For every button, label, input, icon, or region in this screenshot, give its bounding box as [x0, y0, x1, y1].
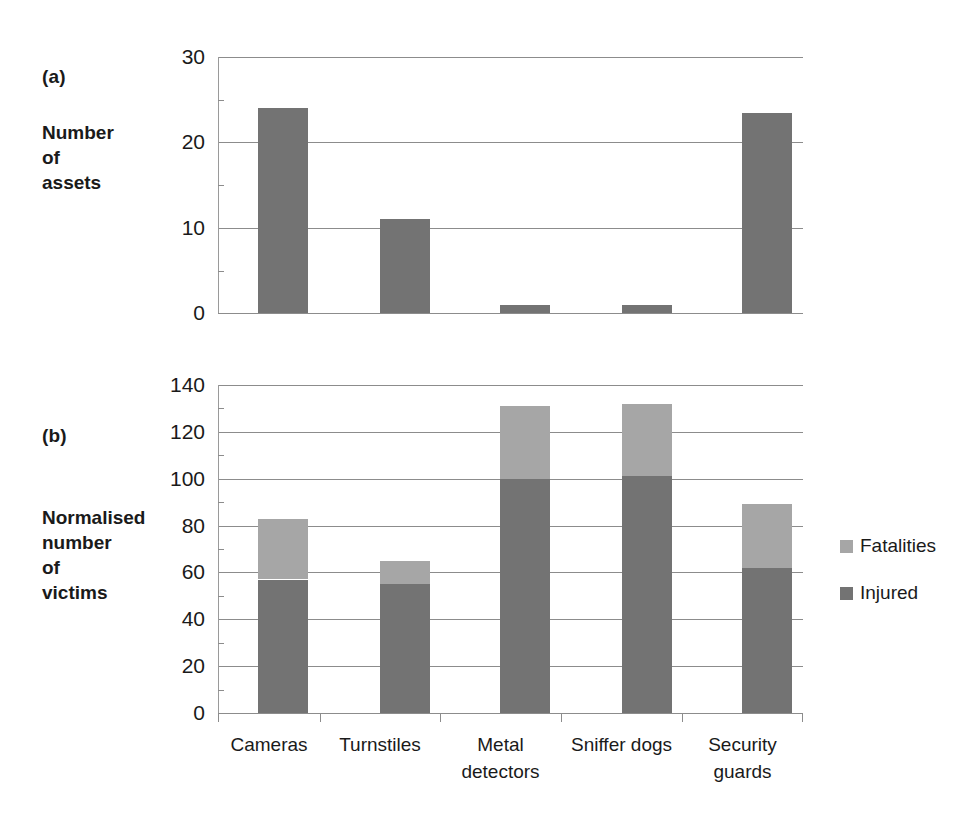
- legend-label-injured: Injured: [860, 582, 918, 604]
- legend-item-injured[interactable]: Injured: [840, 582, 918, 604]
- legend-label-fatalities: Fatalities: [860, 535, 936, 557]
- figure-root: (a) Number of assets 30 2: [0, 0, 972, 830]
- panel-b-legend: Fatalities Injured: [0, 0, 972, 830]
- legend-swatch-injured-icon: [840, 587, 853, 600]
- panel-b: (b) Normalised number of victims: [0, 0, 972, 830]
- legend-item-fatalities[interactable]: Fatalities: [840, 535, 936, 557]
- legend-swatch-fatalities-icon: [840, 540, 853, 553]
